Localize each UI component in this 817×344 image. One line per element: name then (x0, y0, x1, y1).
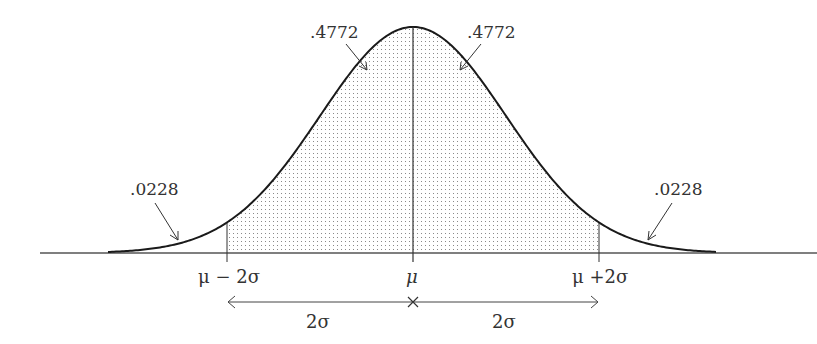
arrow-right-tail (648, 203, 672, 240)
arrow-left-tail (155, 203, 178, 240)
axis-label-mean: μ (406, 266, 418, 287)
distance-label-left: 2σ (306, 311, 330, 332)
area-label-left-tail: .0228 (130, 179, 179, 199)
distance-label-right: 2σ (492, 311, 516, 332)
axis-label-plus-two-sigma: μ +2σ (572, 266, 628, 287)
area-label-left-center: .4772 (310, 22, 359, 42)
normal-curve-diagram: .4772 .4772 .0228 .0228 μ − 2σ μ μ +2σ 2… (0, 0, 817, 344)
axis-label-minus-two-sigma: μ − 2σ (198, 266, 260, 287)
area-label-right-tail: .0228 (654, 179, 703, 199)
area-label-right-center: .4772 (467, 22, 516, 42)
